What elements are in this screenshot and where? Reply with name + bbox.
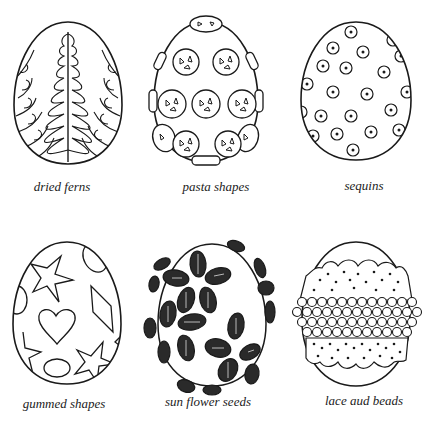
sequins-egg-illustration	[299, 20, 413, 162]
caption-sun-flower-seeds: sun flower seeds	[165, 394, 251, 410]
caption-sequins: sequins	[345, 178, 384, 194]
caption-lace-and-beads: lace aud beads	[325, 393, 403, 409]
pasta-egg-illustration	[150, 14, 262, 166]
diamond-icon	[91, 286, 113, 332]
gummed-shapes-egg-illustration	[11, 240, 123, 386]
egg-sequins	[299, 20, 413, 162]
lace-beads-egg-illustration	[292, 238, 422, 390]
heart-icon	[39, 310, 75, 344]
sunflower-seeds-egg-illustration	[152, 240, 272, 390]
egg-pasta-shapes	[150, 14, 262, 166]
caption-gummed-shapes: gummed shapes	[23, 396, 106, 412]
egg-lace-and-beads	[292, 238, 422, 390]
caption-pasta-shapes: pasta shapes	[183, 179, 250, 195]
egg-dried-ferns	[12, 20, 124, 166]
lace-band	[306, 338, 408, 368]
fern-egg-illustration	[12, 20, 124, 166]
caption-dried-ferns: dried ferns	[34, 179, 91, 195]
star-icon	[31, 256, 73, 302]
egg-sun-flower-seeds	[152, 240, 272, 390]
egg-gummed-shapes	[11, 240, 123, 386]
